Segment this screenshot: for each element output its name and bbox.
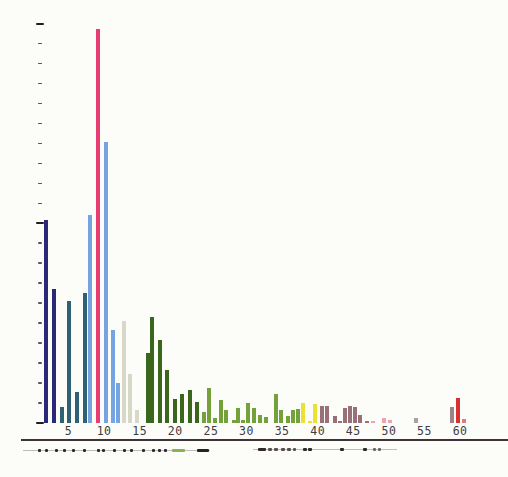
- bar-x22.1: [188, 390, 192, 423]
- annotation-mark: [340, 448, 344, 451]
- bar-x49.3: [382, 418, 386, 423]
- bar-x47.8: [371, 421, 375, 423]
- bar-x17.8: [158, 340, 162, 423]
- bar-x16.7: [150, 317, 154, 423]
- y-axis-minor-tick: [38, 83, 43, 85]
- annotation-mark: [293, 448, 296, 451]
- bar-x14.6: [135, 410, 139, 423]
- x-axis-label-35: 35: [267, 424, 297, 438]
- scanned-bar-chart: 51015202530354045505560: [0, 0, 508, 477]
- y-axis-major-tick: [36, 422, 44, 424]
- y-axis-minor-tick: [38, 382, 43, 384]
- y-axis-minor-tick: [38, 103, 43, 105]
- x-axis-label-60: 60: [445, 424, 475, 438]
- bar-x11.9: [116, 383, 120, 423]
- y-axis-minor-tick: [38, 322, 43, 324]
- x-axis-label-15: 15: [125, 424, 155, 438]
- bar-x32.8: [264, 417, 268, 423]
- bar-x40.6: [320, 406, 324, 423]
- bar-x5.1: [67, 301, 71, 423]
- bar-x45.9: [358, 415, 362, 423]
- annotation-mark: [274, 448, 278, 451]
- bar-x43.9: [343, 408, 347, 423]
- y-axis-minor-tick: [38, 262, 43, 264]
- x-axis-label-40: 40: [303, 424, 333, 438]
- bar-x1.8: [44, 220, 48, 423]
- y-axis-minor-tick: [38, 342, 43, 344]
- bar-x27.1: [224, 410, 228, 423]
- bar-x18.9: [165, 370, 169, 423]
- bar-x60.6: [462, 419, 466, 423]
- bar-x43.2: [338, 421, 342, 423]
- y-axis-minor-tick: [38, 183, 43, 185]
- bar-x38: [301, 403, 305, 423]
- bar-x58.9: [450, 407, 454, 423]
- y-axis-minor-tick: [38, 143, 43, 145]
- bar-x38.9: [308, 421, 312, 423]
- y-axis-minor-tick: [38, 402, 43, 404]
- bar-x9.1: [96, 29, 100, 423]
- annotation-mark: [152, 449, 155, 452]
- annotation-mark: [373, 448, 376, 451]
- y-axis-minor-tick: [38, 282, 43, 284]
- annotation-mark: [308, 448, 312, 451]
- annotation-mark: [123, 449, 126, 452]
- bar-x13.7: [128, 374, 132, 423]
- x-axis-label-5: 5: [54, 424, 84, 438]
- bar-x46.9: [365, 421, 369, 423]
- y-axis-minor-tick: [38, 362, 43, 364]
- plot-area: 51015202530354045505560: [0, 0, 508, 477]
- bar-x12.8: [122, 321, 126, 423]
- annotation-mark: [158, 449, 161, 452]
- x-axis-label-50: 50: [374, 424, 404, 438]
- bar-x19.9: [173, 399, 177, 423]
- x-axis-rule: [21, 439, 508, 441]
- bar-x30.2: [246, 403, 250, 423]
- bar-x35.8: [286, 416, 290, 423]
- bar-x24.1: [202, 412, 206, 423]
- annotation-mark: [258, 448, 266, 451]
- annotation-mark: [113, 449, 116, 452]
- x-axis-label-30: 30: [232, 424, 262, 438]
- annotation-mark: [38, 449, 41, 452]
- bar-x25.6: [213, 418, 217, 423]
- annotation-mark: [63, 449, 66, 452]
- annotation-mark: [363, 448, 367, 451]
- annotation-mark: [172, 449, 185, 452]
- x-axis-label-45: 45: [338, 424, 368, 438]
- bar-x31.9: [258, 415, 262, 423]
- bar-x28.8: [236, 408, 240, 423]
- x-axis-label-55: 55: [410, 424, 440, 438]
- annotation-mark: [287, 448, 291, 451]
- annotation-mark: [164, 449, 167, 452]
- bar-x34.1: [274, 394, 278, 423]
- y-axis-minor-tick: [38, 302, 43, 304]
- bar-x2.9: [52, 289, 56, 423]
- bar-x42.4: [333, 416, 337, 423]
- bar-x24.8: [207, 388, 211, 423]
- annotation-mark: [55, 449, 58, 452]
- y-axis-minor-tick: [38, 43, 43, 45]
- annotation-mark: [281, 448, 285, 451]
- annotation-mark: [130, 449, 133, 452]
- x-axis-label-25: 25: [196, 424, 226, 438]
- bar-x34.9: [279, 410, 283, 423]
- annotation-mark: [97, 449, 100, 452]
- annotation-mark: [72, 449, 75, 452]
- bar-x4.1: [60, 407, 64, 423]
- annotation-mark: [378, 448, 381, 451]
- y-axis-major-tick: [36, 23, 44, 25]
- bar-x41.3: [325, 406, 329, 423]
- x-axis-label-20: 20: [160, 424, 190, 438]
- y-axis-minor-tick: [38, 242, 43, 244]
- bar-x50.2: [388, 420, 392, 423]
- bar-x21: [180, 394, 184, 423]
- annotation-mark: [45, 449, 48, 452]
- y-axis-minor-tick: [38, 63, 43, 65]
- bar-x11.2: [111, 330, 115, 423]
- annotation-mark: [142, 449, 145, 452]
- bar-x45.2: [353, 407, 357, 423]
- bar-x53.8: [414, 418, 418, 423]
- annotation-mark: [197, 449, 209, 452]
- bar-x29.5: [241, 420, 245, 423]
